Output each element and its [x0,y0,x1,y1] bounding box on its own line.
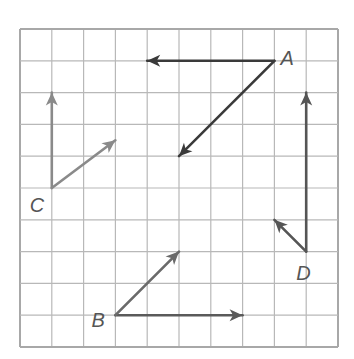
point-label-b: B [91,309,104,331]
point-label-c: C [30,194,45,216]
vector-shaft [179,61,274,156]
vector-arrow-c-up [46,93,58,188]
point-label-a: A [279,47,293,69]
vector-arrow-a-diag [179,61,274,156]
vector-grid-diagram: ABCD [0,0,354,359]
vector-arrow-d-diag [274,220,306,252]
point-labels: ABCD [30,47,311,331]
arrowhead-icon [101,140,115,153]
vector-arrow-d-up [300,93,312,252]
point-label-d: D [296,262,310,284]
grid [20,29,338,347]
